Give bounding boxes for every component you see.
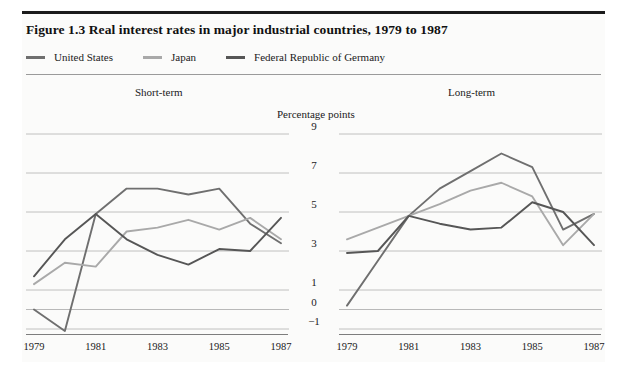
legend-item-united-states: United States bbox=[26, 51, 113, 63]
legend-item-japan: Japan bbox=[143, 51, 196, 63]
y-tick-label-0: 0 bbox=[291, 296, 337, 308]
top-rule-divider bbox=[22, 11, 605, 14]
legend-rule-divider bbox=[26, 74, 601, 75]
y-tick-label-7: 7 bbox=[291, 159, 337, 171]
x-axis-line-short-term bbox=[26, 334, 288, 335]
y-tick-label-3: 3 bbox=[291, 237, 337, 249]
x-tick-label-1983: 1983 bbox=[135, 341, 181, 352]
figure-title: Figure 1.3 Real interest rates in major … bbox=[26, 22, 448, 38]
y-tick-label--1: −1 bbox=[291, 315, 337, 327]
chart-legend: United States Japan Federal Republic of … bbox=[26, 48, 385, 66]
legend-swatch-germany bbox=[226, 56, 245, 59]
figure-container: Figure 1.3 Real interest rates in major … bbox=[0, 0, 627, 376]
panel-title-short-term: Short-term bbox=[135, 86, 183, 98]
x-tick-label-1979: 1979 bbox=[11, 341, 57, 352]
y-tick-label-9: 9 bbox=[291, 120, 337, 132]
x-tick-label-1981: 1981 bbox=[386, 341, 432, 352]
x-tick-label-1979: 1979 bbox=[324, 341, 370, 352]
legend-label-germany: Federal Republic of Germany bbox=[254, 51, 385, 63]
legend-label-japan: Japan bbox=[171, 51, 196, 63]
legend-swatch-japan bbox=[143, 56, 162, 59]
panel-title-long-term: Long-term bbox=[448, 86, 495, 98]
y-axis-unit-label: Percentage points bbox=[277, 108, 353, 120]
y-tick-label-1: 1 bbox=[291, 276, 337, 288]
x-axis-line-long-term bbox=[339, 334, 601, 335]
x-tick-label-1985: 1985 bbox=[196, 341, 242, 352]
legend-item-germany: Federal Republic of Germany bbox=[226, 51, 385, 63]
legend-label-united-states: United States bbox=[54, 51, 113, 63]
legend-swatch-united-states bbox=[26, 56, 45, 59]
x-tick-label-1987: 1987 bbox=[258, 341, 304, 352]
x-tick-label-1987: 1987 bbox=[571, 341, 617, 352]
y-tick-label-5: 5 bbox=[291, 198, 337, 210]
x-tick-label-1985: 1985 bbox=[509, 341, 555, 352]
x-tick-label-1983: 1983 bbox=[448, 341, 494, 352]
x-tick-label-1981: 1981 bbox=[73, 341, 119, 352]
